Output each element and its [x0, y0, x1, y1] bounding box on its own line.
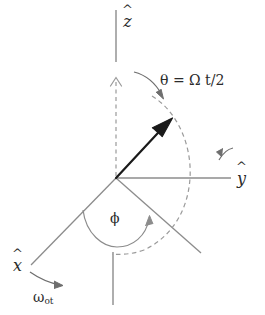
theta-arc-lower-tail — [112, 250, 144, 254]
omega-subscript: ot — [44, 296, 53, 306]
x-axis-symbol: x — [12, 258, 23, 273]
omega-pointer-arrowhead — [54, 281, 63, 289]
phi-angle-label: ϕ — [110, 211, 120, 225]
y-axis-symbol: y — [236, 171, 247, 186]
y-axis-label: ^ y — [236, 163, 247, 186]
vector-diagram-figure: ^ z ^ y ^ x θ = Ω t/2 ϕ ωot — [0, 0, 265, 315]
z-axis-symbol: z — [122, 14, 133, 29]
omega-label: ωot — [33, 290, 53, 306]
omega-symbol: ω — [33, 289, 44, 305]
diagram-canvas — [0, 0, 265, 315]
theta-equation-label: θ = Ω t/2 — [160, 73, 224, 87]
z-axis-label: ^ z — [122, 6, 133, 29]
phi-arc-arrowhead — [146, 216, 154, 227]
theta-pointer-arrowhead — [156, 89, 164, 99]
state-vector-arrowhead — [152, 118, 173, 137]
x-axis-label: ^ x — [12, 250, 23, 273]
theta-arc — [144, 96, 190, 250]
y-rotation-arrowhead — [217, 149, 224, 158]
x-axis-line — [31, 178, 116, 265]
